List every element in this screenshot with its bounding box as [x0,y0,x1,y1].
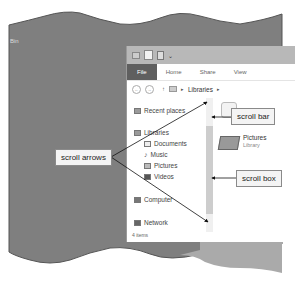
nav-label: Libraries [144,129,169,136]
file-explorer-window: ⌄ File Home Share View ← → ↑ ▸ Libraries… [127,46,295,242]
pictures-library-type: Library [243,142,260,148]
back-button[interactable]: ← [132,85,141,94]
libraries-location-icon [169,86,177,92]
forward-button[interactable]: → [145,85,154,94]
tab-view[interactable]: View [225,64,256,80]
pictures-library-icon [218,136,240,150]
recent-places-icon [134,108,141,114]
nav-label: Recent places [144,107,185,114]
address-bar: ← → ↑ ▸ Libraries ▸ [127,80,295,98]
nav-recent-places[interactable]: Recent places [134,107,185,114]
scroll-box-callout: scroll box [236,170,282,187]
nav-network[interactable]: Network [134,219,168,226]
libraries-icon [134,130,141,136]
pictures-icon [144,163,151,169]
nav-label: Documents [154,140,187,147]
nav-documents[interactable]: Documents [144,140,187,147]
scroll-arrows-callout: scroll arrows [55,149,112,166]
tab-file[interactable]: File [127,64,157,80]
nav-pictures[interactable]: Pictures [144,162,177,169]
tab-home[interactable]: Home [157,64,191,80]
properties-icon[interactable] [132,52,140,59]
music-icon: ♪ [144,151,148,158]
navigation-pane: Recent places Libraries Documents ♪ Musi… [127,98,205,232]
navigation-scroll-bar[interactable] [206,98,213,232]
new-folder-icon[interactable] [157,51,164,60]
path-separator: ▸ [181,86,184,92]
nav-videos[interactable]: Videos [144,173,174,180]
nav-label: Network [144,219,168,226]
videos-icon [144,174,151,180]
up-button[interactable]: ↑ [162,86,165,92]
recycle-bin-label[interactable]: Bin [10,38,19,44]
library-item-pictures[interactable]: Pictures Library [219,136,239,150]
scroll-bar-callout: scroll bar [231,108,275,125]
nav-label: Music [151,151,168,158]
nav-label: Videos [154,173,174,180]
pictures-library-name: Pictures [243,134,266,141]
documents-icon [144,141,151,147]
tab-share[interactable]: Share [191,64,225,80]
nav-music[interactable]: ♪ Music [144,151,167,158]
quick-access-toolbar: ⌄ [132,50,173,60]
network-icon [134,220,141,226]
figure: Bin ⌄ File Home Share View ← → ↑ ▸ Libra… [0,0,295,285]
status-bar-item-count: 4 items [132,232,148,238]
computer-icon [134,197,141,203]
new-file-icon[interactable] [144,50,153,60]
nav-libraries[interactable]: Libraries [134,129,169,136]
nav-label: Pictures [154,162,177,169]
nav-label: Computer [144,196,173,203]
title-bar: ⌄ [127,46,295,64]
path-separator-end[interactable]: ▸ [217,86,220,92]
ribbon-tabs: File Home Share View [127,64,295,81]
nav-computer[interactable]: Computer [134,196,173,203]
address-path[interactable]: Libraries [188,86,213,93]
scroll-box[interactable] [206,126,213,214]
customize-toolbar-chevron-icon[interactable]: ⌄ [168,52,173,59]
